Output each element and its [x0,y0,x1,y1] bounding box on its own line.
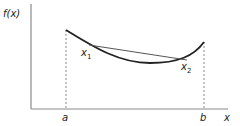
label-a: a [62,112,68,123]
label-x1: x1 [80,47,91,61]
label-b: b [200,112,206,123]
label-x2: x2 [180,61,191,75]
diagram-svg: f(x) x a b x1 x2 [0,0,240,126]
chord-x1-x2 [89,45,187,60]
x-axis-label: x [223,112,230,123]
convex-function-diagram: f(x) x a b x1 x2 [0,0,240,126]
y-axis-label: f(x) [3,8,20,19]
